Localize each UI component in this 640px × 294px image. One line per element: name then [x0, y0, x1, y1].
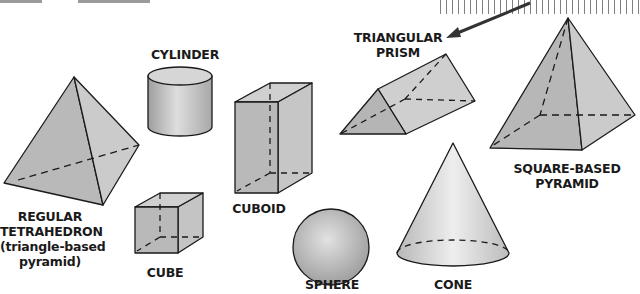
label-cuboid: CUBOID	[226, 201, 292, 216]
cube-shape	[135, 193, 203, 253]
triangular-prism-shape	[340, 54, 475, 134]
label-line: CONE	[423, 277, 483, 292]
cuboid-shape	[235, 83, 312, 193]
label-line: (triangle-based	[0, 239, 100, 254]
label-line: PYRAMID	[512, 176, 622, 191]
label-triangular-prism: TRIANGULAR PRISM	[350, 30, 446, 60]
label-line: TRIANGULAR	[350, 30, 446, 45]
label-sphere: SPHERE	[296, 277, 368, 292]
label-line: pyramid)	[0, 254, 100, 269]
tetrahedron-shape	[4, 77, 139, 205]
label-line: REGULAR	[0, 209, 100, 224]
label-line: CUBE	[135, 265, 195, 280]
label-line: SPHERE	[296, 277, 368, 292]
sphere-shape	[293, 209, 369, 285]
label-square-pyramid: SQUARE-BASED PYRAMID	[512, 161, 622, 191]
label-line: CYLINDER	[145, 47, 225, 62]
label-line: PRISM	[350, 45, 446, 60]
cylinder-shape	[148, 67, 212, 136]
label-cone: CONE	[423, 277, 483, 292]
label-cylinder: CYLINDER	[145, 47, 225, 62]
label-line: CUBOID	[226, 201, 292, 216]
label-cube: CUBE	[135, 265, 195, 280]
label-line: SQUARE-BASED	[512, 161, 622, 176]
cone-shape	[397, 143, 509, 266]
pointer-arrow	[446, 3, 530, 38]
label-tetrahedron: REGULAR TETRAHEDRON (triangle-based pyra…	[0, 209, 100, 269]
label-line: TETRAHEDRON	[0, 224, 100, 239]
square-pyramid-shape	[490, 18, 635, 150]
